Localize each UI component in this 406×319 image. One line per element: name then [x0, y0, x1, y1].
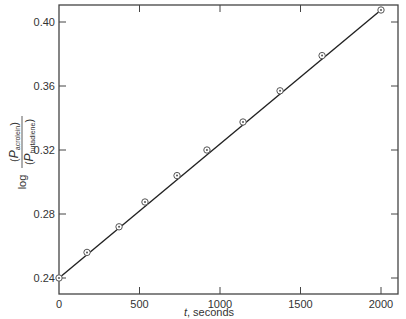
line-chart: 05001000150020000.240.280.320.360.40 t, … — [0, 0, 406, 319]
axis-ticks — [59, 5, 398, 294]
data-point-marker — [240, 119, 246, 125]
data-point-marker — [116, 224, 122, 230]
svg-text:(Pacrolein): (Pacrolein) — [7, 122, 21, 162]
y-axis-label: log(Pacrolein)(Pbutadiene) — [7, 116, 36, 189]
x-tick-label: 1500 — [288, 298, 312, 310]
data-point-marker — [204, 147, 210, 153]
regression-line — [59, 10, 381, 278]
x-axis-title: t, seconds — [184, 306, 235, 318]
data-point-marker — [84, 249, 90, 255]
x-tick-label: 500 — [130, 298, 148, 310]
data-point-marker — [378, 7, 384, 13]
svg-text:log: log — [16, 175, 28, 190]
data-point-marker — [319, 52, 325, 58]
data-point-marker — [174, 172, 180, 178]
svg-text:(Pbutadiene): (Pbutadiene) — [22, 119, 36, 165]
plot-border — [59, 5, 398, 294]
data-point-marker — [277, 88, 283, 94]
data-point-marker — [56, 275, 62, 281]
y-tick-label: 0.36 — [34, 80, 55, 92]
plot-frame — [59, 5, 398, 294]
axis-tick-labels: 05001000150020000.240.280.320.360.40 — [34, 16, 394, 310]
y-tick-label: 0.24 — [34, 272, 55, 284]
fit-line — [59, 10, 381, 278]
x-tick-label: 0 — [56, 298, 62, 310]
x-axis-label: t, seconds — [184, 306, 235, 318]
y-tick-label: 0.32 — [34, 144, 55, 156]
data-point-marker — [142, 199, 148, 205]
y-axis-title: log(Pacrolein)(Pbutadiene) — [7, 116, 36, 189]
x-tick-label: 2000 — [369, 298, 393, 310]
y-tick-label: 0.40 — [34, 16, 55, 28]
y-tick-label: 0.28 — [34, 208, 55, 220]
chart-container: 05001000150020000.240.280.320.360.40 t, … — [0, 0, 406, 319]
